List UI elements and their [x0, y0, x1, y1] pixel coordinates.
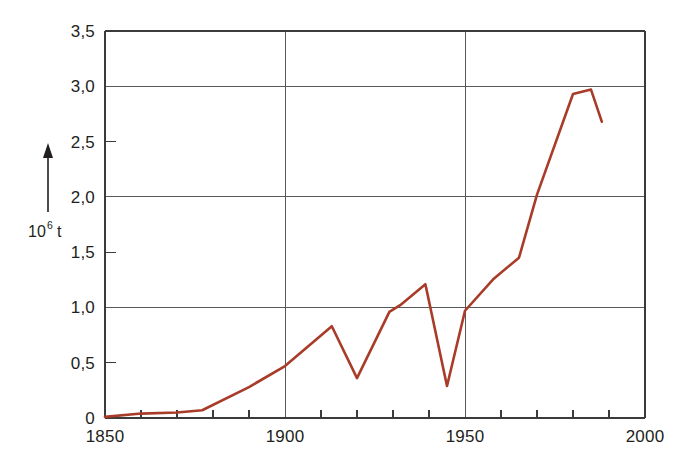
x-tick-label-1900: 1900: [266, 427, 305, 446]
y-axis-unit-label: 10: [28, 223, 46, 240]
y-tick-label-1-5: 1,5: [71, 243, 95, 262]
y-tick-label-1: 1,0: [71, 298, 95, 317]
y-tick-label-3: 3,0: [71, 77, 95, 96]
chart-background: [0, 0, 689, 468]
y-tick-label-2-5: 2,5: [71, 133, 95, 152]
y-axis-unit-suffix: t: [57, 223, 62, 240]
y-tick-label-3-5: 3,5: [71, 22, 95, 41]
y-axis-unit-exponent: 6: [47, 219, 53, 231]
x-tick-label-1950: 1950: [446, 427, 485, 446]
x-tick-label-2000: 2000: [626, 427, 665, 446]
y-tick-label-0: 0: [85, 409, 95, 428]
y-tick-label-0-5: 0,5: [71, 354, 95, 373]
line-chart: 1850190019502000 00,51,01,52,02,53,03,5 …: [0, 0, 689, 468]
chart-figure: 1850190019502000 00,51,01,52,02,53,03,5 …: [0, 0, 689, 468]
x-tick-label-1850: 1850: [86, 427, 125, 446]
y-tick-label-2: 2,0: [71, 188, 95, 207]
